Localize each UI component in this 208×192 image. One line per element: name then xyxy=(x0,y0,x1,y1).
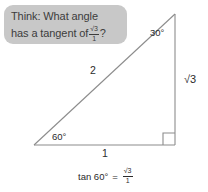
right-angle-marker-icon xyxy=(163,133,175,145)
angle-label-top: 30° xyxy=(150,27,164,38)
hint-line-2-suffix: ? xyxy=(100,27,106,39)
figure-canvas: Think: What angle has a tangent of√31? 3… xyxy=(0,0,208,192)
tangent-equation: tan 60°=√31 xyxy=(78,167,134,185)
hint-fraction-numerator: √3 xyxy=(89,25,99,33)
hint-line-2: has a tangent of√31? xyxy=(11,25,122,43)
side-label-vertical: √3 xyxy=(184,74,196,85)
equation-fraction-denominator: 1 xyxy=(123,177,133,185)
hint-line-2-prefix: has a tangent of xyxy=(11,27,88,39)
side-label-horizontal: 1 xyxy=(102,148,108,159)
side-label-hypotenuse: 2 xyxy=(90,65,96,76)
hint-tangent-fraction: √31 xyxy=(89,25,99,43)
hint-bubble: Think: What angle has a tangent of√31? xyxy=(4,5,127,44)
equation-fraction: √31 xyxy=(123,167,133,185)
equation-operator: = xyxy=(112,171,118,182)
angle-label-bottom-left: 60° xyxy=(52,131,66,142)
hint-fraction-denominator: 1 xyxy=(89,35,99,43)
hint-line-1: Think: What angle xyxy=(11,8,122,25)
equation-left-side: tan 60° xyxy=(78,171,108,182)
equation-fraction-numerator: √3 xyxy=(123,167,133,175)
